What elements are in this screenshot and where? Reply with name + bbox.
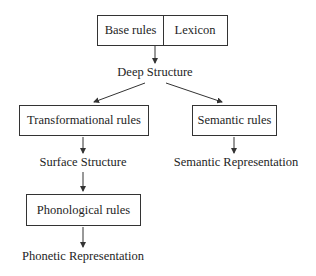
semantic-representation-label: Semantic Representation xyxy=(170,155,302,170)
semantic-rules-label: Semantic rules xyxy=(198,113,272,128)
deep-structure-label: Deep Structure xyxy=(105,65,205,80)
surface-structure-label: Surface Structure xyxy=(28,155,138,170)
transformational-rules-label: Transformational rules xyxy=(27,113,141,128)
base-lexicon-box: Base rules Lexicon xyxy=(97,15,228,46)
base-rules-cell: Base rules xyxy=(98,16,164,45)
transformational-rules-box: Transformational rules xyxy=(19,105,149,136)
arrow-deep-to-semantic xyxy=(166,83,222,102)
phonetic-representation-label: Phonetic Representation xyxy=(16,249,150,264)
base-rules-label: Base rules xyxy=(105,23,157,38)
arrow-deep-to-transformational xyxy=(94,83,145,102)
phonological-rules-label: Phonological rules xyxy=(37,203,130,218)
semantic-rules-box: Semantic rules xyxy=(192,105,277,136)
phonological-rules-box: Phonological rules xyxy=(26,194,141,226)
lexicon-cell: Lexicon xyxy=(163,16,227,45)
lexicon-label: Lexicon xyxy=(175,23,216,38)
